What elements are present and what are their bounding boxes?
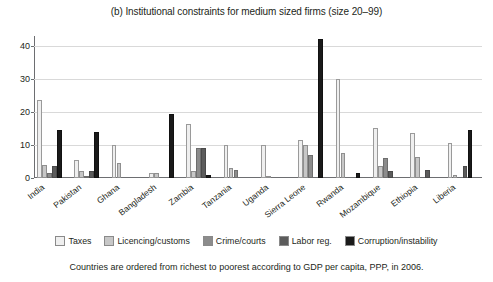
- bar: [234, 170, 239, 178]
- chart-legend: TaxesLicencing/customsCrime/courtsLabor …: [0, 236, 493, 246]
- bar: [79, 171, 84, 178]
- bar: [201, 148, 206, 178]
- bar: [42, 165, 47, 178]
- bar: [94, 132, 99, 178]
- bar: [261, 145, 266, 178]
- legend-swatch: [345, 236, 355, 246]
- bar: [463, 166, 468, 178]
- bar: [37, 100, 42, 178]
- bar: [336, 79, 341, 178]
- chart-footnote: Countries are ordered from richest to po…: [0, 262, 493, 272]
- bar-group: [146, 36, 183, 178]
- y-tick-label: 10: [20, 140, 30, 150]
- bar: [388, 171, 393, 178]
- bar-groups: [34, 36, 482, 178]
- legend-swatch: [279, 236, 289, 246]
- bar: [149, 173, 154, 178]
- plot-area: 010203040: [34, 36, 482, 178]
- bar: [52, 166, 57, 178]
- bar: [191, 171, 196, 178]
- bar: [378, 166, 383, 178]
- y-tick-label: 30: [20, 74, 30, 84]
- legend-label: Taxes: [68, 236, 91, 246]
- legend-item[interactable]: Taxes: [55, 236, 91, 246]
- legend-swatch: [104, 236, 114, 246]
- bar: [186, 124, 191, 178]
- bar: [356, 173, 361, 178]
- y-tick-label: 20: [20, 107, 30, 117]
- bar: [341, 153, 346, 178]
- bar: [84, 176, 89, 178]
- legend-item[interactable]: Corruption/instability: [345, 236, 438, 246]
- bar: [154, 173, 159, 178]
- legend-swatch: [55, 236, 65, 246]
- bar: [169, 114, 174, 178]
- y-tick-label: 40: [20, 41, 30, 51]
- legend-label: Crime/courts: [216, 236, 266, 246]
- bar: [425, 170, 430, 178]
- legend-label: Corruption/instability: [358, 236, 438, 246]
- bar-group: [445, 36, 482, 178]
- bar-group: [295, 36, 332, 178]
- bar: [57, 130, 62, 178]
- bar-group: [407, 36, 444, 178]
- legend-item[interactable]: Crime/courts: [203, 236, 266, 246]
- bar: [410, 133, 415, 178]
- x-label-cell: Liberia: [445, 180, 482, 226]
- y-tick-label: 0: [25, 173, 30, 183]
- bar: [453, 175, 458, 178]
- legend-swatch: [203, 236, 213, 246]
- bar: [303, 145, 308, 178]
- chart-figure: (b) Institutional constraints for medium…: [0, 0, 493, 282]
- bar: [373, 128, 378, 178]
- bar-group: [221, 36, 258, 178]
- bar: [196, 148, 201, 178]
- bar-group: [333, 36, 370, 178]
- legend-item[interactable]: Labor reg.: [279, 236, 332, 246]
- x-axis-labels: IndiaPakistanGhanaBangladeshZambiaTanzan…: [34, 180, 482, 226]
- legend-label: Labor reg.: [292, 236, 332, 246]
- bar-group: [183, 36, 220, 178]
- bar-group: [370, 36, 407, 178]
- bar: [89, 171, 94, 178]
- x-tick-label: India: [25, 182, 46, 201]
- bar: [468, 130, 473, 178]
- legend-label: Licencing/customs: [117, 236, 189, 246]
- bar-group: [109, 36, 146, 178]
- bar-group: [258, 36, 295, 178]
- bar: [224, 145, 229, 178]
- bar: [415, 157, 420, 178]
- bar: [206, 175, 211, 178]
- legend-item[interactable]: Licencing/customs: [104, 236, 189, 246]
- bar: [117, 163, 122, 178]
- bar-group: [71, 36, 108, 178]
- bar: [383, 158, 388, 178]
- chart-title: (b) Institutional constraints for medium…: [0, 6, 493, 17]
- bar: [229, 168, 234, 178]
- y-tick-mark: [31, 178, 34, 179]
- bar: [47, 173, 52, 178]
- bar: [308, 155, 313, 178]
- bar: [74, 160, 79, 178]
- bar: [448, 143, 453, 178]
- bar: [112, 145, 117, 178]
- bar: [298, 140, 303, 178]
- bar-group: [34, 36, 71, 178]
- bar: [266, 176, 271, 178]
- bar: [318, 39, 323, 178]
